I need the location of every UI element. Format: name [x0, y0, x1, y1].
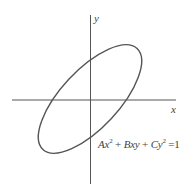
equation-plus-1: +: [113, 138, 124, 150]
equation-equals: =1: [166, 138, 180, 150]
ellipse-equation: Ax2 + Bxy + Cy2 =1: [98, 138, 180, 150]
equation-term-c: Cy: [151, 138, 163, 150]
equation-plus-2: +: [140, 138, 151, 150]
y-axis-label: y: [94, 13, 99, 24]
equation-term-b: Bxy: [124, 138, 140, 150]
x-axis-label: x: [171, 104, 176, 115]
conic-section-diagram: x y Ax2 + Bxy + Cy2 =1: [0, 0, 187, 191]
diagram-canvas: [0, 0, 187, 191]
equation-term-a: Ax: [98, 138, 109, 150]
